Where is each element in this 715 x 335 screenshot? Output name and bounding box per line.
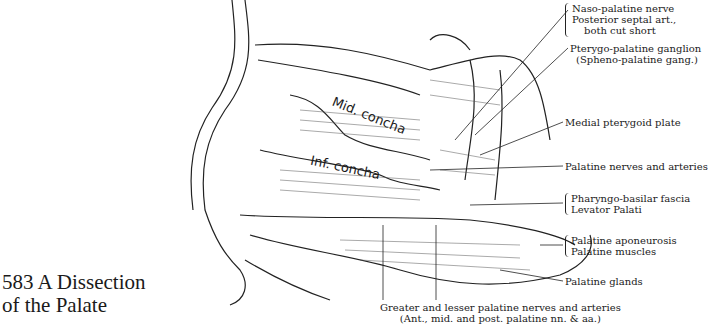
label-palatine-aponeurosis: Palatine aponeurosisPalatine muscles bbox=[571, 235, 677, 257]
label-pharyngo-basilar: Pharyngo-basilar fasciaLevator Palati bbox=[571, 193, 690, 215]
brace bbox=[565, 3, 571, 37]
label-greater-lesser-palatine: Greater and lesser palatine nerves and a… bbox=[380, 302, 621, 324]
label-pterygo-palatine: Pterygo-palatine ganglion(Spheno-palatin… bbox=[570, 43, 701, 65]
label-naso-palatine: Naso-palatine nervePosterior septal art.… bbox=[572, 3, 676, 36]
label-medial-pterygoid: Medial pterygoid plate bbox=[565, 117, 681, 128]
figure-title: 583 A Dissection of the Palate bbox=[2, 271, 146, 317]
label-palatine-nerves: Palatine nerves and arteries bbox=[565, 161, 708, 172]
label-palatine-glands: Palatine glands bbox=[565, 276, 643, 287]
